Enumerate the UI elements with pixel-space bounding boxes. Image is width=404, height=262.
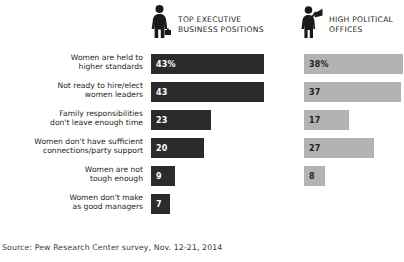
row-label-line2: connections/party support: [0, 146, 143, 155]
source-note: Source: Pew Research Center survey, Nov.…: [2, 243, 222, 252]
row-label-line1: Women don't make: [69, 193, 143, 202]
table-row: Women don't make as good managers 7: [0, 194, 404, 216]
bar-political: 37: [304, 82, 401, 102]
bar-political: 27: [304, 138, 374, 158]
row-label-line1: Women are held to: [71, 53, 143, 62]
row-label: Women are not tough enough: [0, 165, 143, 183]
legend-label-business-line1: TOP EXECUTIVE: [178, 15, 241, 24]
bar-value-business: 43: [151, 88, 168, 97]
bar-political: 38%: [304, 54, 403, 74]
row-label: Women are held to higher standards: [0, 53, 143, 71]
bar-value-business: 20: [151, 144, 168, 153]
legend-label-political: HIGH POLITICAL OFFICES: [329, 4, 393, 34]
bar-business: 43%: [151, 54, 264, 74]
row-label: Family responsibilities don't leave enou…: [0, 109, 143, 127]
legend-top-executive-business-positions: TOP EXECUTIVE BUSINESS POSITIONS: [150, 4, 264, 42]
table-row: Family responsibilities don't leave enou…: [0, 110, 404, 132]
woman-with-sign-icon: [301, 4, 323, 42]
bar-political: 17: [304, 110, 349, 130]
chart-container: TOP EXECUTIVE BUSINESS POSITIONS HIGH PO…: [0, 0, 404, 262]
legend-label-political-line1: HIGH POLITICAL: [329, 15, 393, 24]
bar-business: 9: [151, 166, 175, 186]
bar-value-political: 38%: [304, 60, 329, 69]
bar-value-business: 7: [151, 200, 162, 209]
bar-business: 43: [151, 82, 264, 102]
row-label-line2: don't leave enough time: [0, 118, 143, 127]
row-label-line2: higher standards: [0, 62, 143, 71]
table-row: Women are not tough enough 9 8: [0, 166, 404, 188]
table-row: Women don't have sufficient connections/…: [0, 138, 404, 160]
row-label-line1: Not ready to hire/elect: [58, 81, 143, 90]
legend-label-business-line2: BUSINESS POSITIONS: [178, 25, 264, 35]
row-label: Women don't have sufficient connections/…: [0, 137, 143, 155]
legend-label-political-line2: OFFICES: [329, 25, 393, 35]
row-label-line1: Family responsibilities: [59, 109, 143, 118]
row-label: Not ready to hire/elect women leaders: [0, 81, 143, 99]
bar-value-political: 37: [304, 88, 321, 97]
bar-value-business: 23: [151, 116, 168, 125]
bar-business: 20: [151, 138, 204, 158]
legend-label-business: TOP EXECUTIVE BUSINESS POSITIONS: [178, 4, 264, 34]
table-row: Women are held to higher standards 43% 3…: [0, 54, 404, 76]
row-label-line1: Women are not: [85, 165, 143, 174]
bar-value-political: 27: [304, 144, 321, 153]
row-label-line1: Women don't have sufficient: [34, 137, 143, 146]
bar-value-business: 43%: [151, 60, 176, 69]
row-label-line2: women leaders: [0, 90, 143, 99]
bar-business: 23: [151, 110, 211, 130]
bar-value-business: 9: [151, 172, 162, 181]
table-row: Not ready to hire/elect women leaders 43…: [0, 82, 404, 104]
bar-value-political: 8: [304, 172, 315, 181]
bar-value-political: 17: [304, 116, 321, 125]
bar-business: 7: [151, 194, 170, 214]
businesswoman-icon: [150, 4, 172, 42]
row-label: Women don't make as good managers: [0, 193, 143, 211]
row-label-line2: as good managers: [0, 202, 143, 211]
row-label-line2: tough enough: [0, 174, 143, 183]
legend-high-political-offices: HIGH POLITICAL OFFICES: [301, 4, 393, 42]
bar-political: 8: [304, 166, 325, 186]
